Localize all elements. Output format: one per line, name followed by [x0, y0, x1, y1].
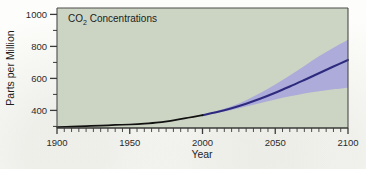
x-tick-label: 1950 — [119, 137, 140, 148]
panel-title: CO2 Concentrations — [68, 13, 157, 26]
x-tick-label: 2100 — [337, 137, 358, 148]
x-tick-label: 2050 — [265, 137, 286, 148]
y-axis-tick-labels: 4006008001000 — [26, 9, 47, 116]
y-tick-label: 600 — [31, 73, 47, 84]
x-axis-tick-labels: 19001950200020502100 — [46, 137, 358, 148]
x-tick-label: 1900 — [46, 137, 67, 148]
x-tick-label: 2000 — [192, 137, 213, 148]
co2-concentrations-figure: 4006008001000 19001950200020502100 CO2 C… — [0, 0, 366, 169]
y-tick-label: 800 — [31, 41, 47, 52]
y-tick-label: 400 — [31, 105, 47, 116]
y-axis-ticks — [50, 14, 57, 126]
y-axis-title: Parts per Million — [4, 30, 16, 105]
chart-svg: 4006008001000 19001950200020502100 CO2 C… — [0, 0, 366, 169]
x-axis-title: Year — [191, 148, 213, 160]
y-tick-label: 1000 — [26, 9, 47, 20]
x-axis-ticks — [57, 128, 348, 134]
